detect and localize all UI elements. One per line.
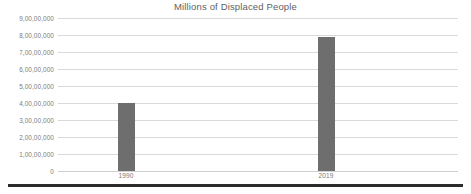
page-horizontal-rule <box>8 184 463 187</box>
y-axis-tick-label: 9,00,00,000 <box>0 15 54 22</box>
gridline <box>58 52 458 53</box>
y-axis: 01,00,00,0002,00,00,0003,00,00,0004,00,0… <box>0 18 54 171</box>
plot-area <box>58 18 458 171</box>
y-axis-tick-label: 0 <box>0 168 54 175</box>
bar <box>318 37 335 171</box>
x-axis: 19902019 <box>58 172 458 184</box>
y-axis-tick-label: 6,00,00,000 <box>0 66 54 73</box>
x-axis-tick-label: 1990 <box>118 172 133 179</box>
y-axis-tick-label: 1,00,00,000 <box>0 151 54 158</box>
y-axis-tick-label: 7,00,00,000 <box>0 49 54 56</box>
chart-title: Millions of Displaced People <box>0 1 471 12</box>
y-axis-tick-label: 2,00,00,000 <box>0 134 54 141</box>
gridline <box>58 35 458 36</box>
bar <box>118 103 135 171</box>
y-axis-tick-label: 8,00,00,000 <box>0 32 54 39</box>
gridline <box>58 18 458 19</box>
x-axis-tick-label: 2019 <box>318 172 333 179</box>
gridline <box>58 69 458 70</box>
gridline <box>58 86 458 87</box>
y-axis-tick-label: 5,00,00,000 <box>0 83 54 90</box>
y-axis-tick-label: 3,00,00,000 <box>0 117 54 124</box>
y-axis-tick-label: 4,00,00,000 <box>0 100 54 107</box>
chart-screenshot: Millions of Displaced People 01,00,00,00… <box>0 0 471 194</box>
